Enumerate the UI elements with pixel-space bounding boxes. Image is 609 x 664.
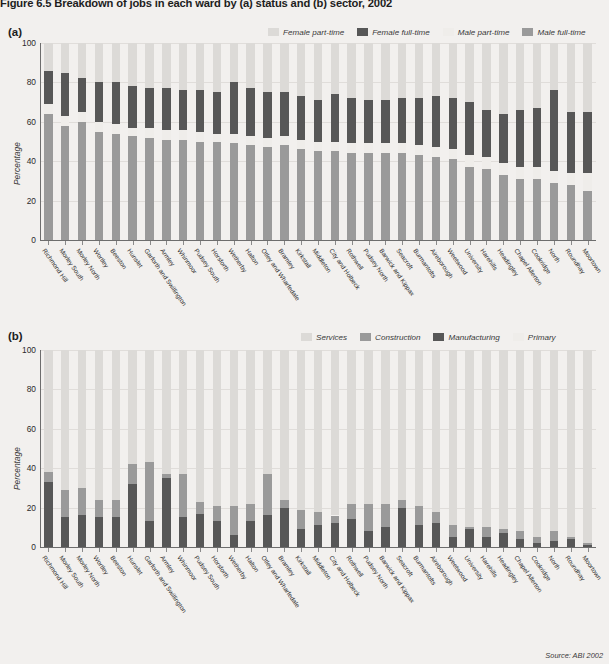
y-axis-tick-label: 80 xyxy=(14,384,36,394)
bar-segment xyxy=(398,500,406,508)
bar-segment xyxy=(533,108,541,167)
bar-segment xyxy=(449,159,457,240)
x-axis-tick xyxy=(99,548,100,552)
bar-group xyxy=(145,350,153,547)
bar-segment xyxy=(331,94,339,141)
bar-group xyxy=(263,350,271,547)
x-axis-tick xyxy=(217,241,218,245)
bar-segment xyxy=(196,90,204,131)
bar-segment xyxy=(263,474,271,515)
bar-segment xyxy=(567,539,575,547)
bar-segment xyxy=(314,512,322,526)
bar-group xyxy=(364,43,372,240)
bar-group xyxy=(398,43,406,240)
x-axis-tick-label: City and Holbeck xyxy=(328,554,361,598)
bar-segment xyxy=(263,138,271,148)
x-axis-tick xyxy=(335,241,336,245)
bar-segment xyxy=(381,143,389,153)
bar-segment xyxy=(145,43,153,88)
x-axis-tick xyxy=(200,241,201,245)
bar-segment xyxy=(516,350,524,531)
bar-segment xyxy=(533,167,541,179)
bar-group xyxy=(381,43,389,240)
chart-panel-b xyxy=(40,350,596,547)
x-axis-tick xyxy=(200,548,201,552)
x-axis-tick xyxy=(251,241,252,245)
bar-group xyxy=(331,43,339,240)
bar-segment xyxy=(516,43,524,110)
bar-group xyxy=(465,43,473,240)
x-axis-tick xyxy=(503,548,504,552)
bar-group xyxy=(112,350,120,547)
x-axis-tick xyxy=(183,548,184,552)
bar-segment xyxy=(331,142,339,152)
bar-segment xyxy=(196,142,204,241)
bar-group xyxy=(263,43,271,240)
panel-a-label: (a) xyxy=(8,26,22,38)
x-axis-tick xyxy=(419,548,420,552)
bar-segment xyxy=(230,350,238,506)
bar-segment xyxy=(415,145,423,155)
bar-segment xyxy=(145,350,153,462)
bar-segment xyxy=(347,153,355,240)
legend-label: Construction xyxy=(375,333,420,342)
x-axis-tick xyxy=(352,241,353,245)
x-axis-tick xyxy=(453,241,454,245)
y-axis-tick-label: 80 xyxy=(14,77,36,87)
legend-item: Female full-time xyxy=(357,28,430,37)
x-axis-tick xyxy=(133,548,134,552)
x-axis-tick-label: Wortley xyxy=(92,247,110,269)
x-axis-tick xyxy=(284,548,285,552)
bar-segment xyxy=(213,506,221,522)
x-axis-tick xyxy=(234,241,235,245)
panel-b-label: (b) xyxy=(8,330,23,342)
legend-item: Services xyxy=(301,333,347,342)
bar-group xyxy=(61,350,69,547)
bar-group xyxy=(398,350,406,547)
legend-swatch-icon xyxy=(360,333,371,341)
bar-group xyxy=(465,350,473,547)
bar-segment xyxy=(213,350,221,506)
x-axis-tick xyxy=(571,548,572,552)
bar-group xyxy=(550,43,558,240)
bar-group xyxy=(583,43,591,240)
bar-segment xyxy=(280,145,288,240)
legend-item: Construction xyxy=(360,333,420,342)
bar-segment xyxy=(415,98,423,145)
bar-segment xyxy=(263,350,271,474)
y-axis-tick-label: 100 xyxy=(14,38,36,48)
bar-segment xyxy=(314,350,322,512)
bar-group xyxy=(128,43,136,240)
bar-group xyxy=(533,350,541,547)
bar-segment xyxy=(61,126,69,240)
bar-segment xyxy=(347,350,355,504)
x-axis-tick xyxy=(588,548,589,552)
bar-segment xyxy=(230,43,238,82)
x-axis-tick xyxy=(335,548,336,552)
bar-group xyxy=(567,350,575,547)
bar-segment xyxy=(95,43,103,82)
legend-panel-b: ServicesConstructionManufacturingPrimary xyxy=(288,331,556,343)
bar-segment xyxy=(550,90,558,171)
bar-segment xyxy=(331,516,339,524)
bar-segment xyxy=(482,527,490,537)
legend-swatch-icon xyxy=(301,333,312,341)
bar-segment xyxy=(61,490,69,518)
x-axis-tick xyxy=(82,241,83,245)
bar-group xyxy=(196,350,204,547)
bar-group xyxy=(533,43,541,240)
bar-segment xyxy=(449,350,457,525)
x-axis-tick xyxy=(385,548,386,552)
bar-segment xyxy=(432,523,440,547)
x-axis-tick xyxy=(150,548,151,552)
x-axis-tick-label: Halton xyxy=(244,247,260,266)
bar-group xyxy=(179,43,187,240)
source-note: Source: ABI 2002 xyxy=(545,651,603,660)
legend-swatch-icon xyxy=(357,28,368,36)
bar-segment xyxy=(482,537,490,547)
bar-segment xyxy=(297,510,305,530)
figure-title: Figure 6.5 Breakdown of jobs in each war… xyxy=(0,0,609,9)
bar-segment xyxy=(364,100,372,143)
y-axis-tick-label: 60 xyxy=(14,424,36,434)
bar-segment xyxy=(347,43,355,98)
